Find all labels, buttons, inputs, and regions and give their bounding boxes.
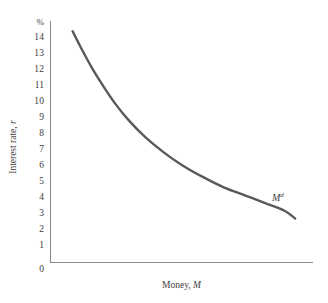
y-tick-label-10: 10 <box>22 97 44 107</box>
y-tick-label-1: 1 <box>22 241 44 251</box>
x-axis-title-symbol: M <box>193 280 201 290</box>
y-axis-title-text: Interest rate, <box>8 124 18 174</box>
y-tick-label-2: 2 <box>22 225 44 235</box>
y-tick-label-5: 5 <box>22 177 44 187</box>
y-axis-title-symbol: r <box>8 120 18 124</box>
x-axis-title: Money, M <box>50 280 313 290</box>
y-axis-title: Interest rate, r <box>8 103 18 191</box>
money-demand-chart: % 14 13 12 11 10 9 8 7 6 5 4 3 2 1 0 Int… <box>0 0 328 303</box>
y-tick-label-9: 9 <box>22 113 44 123</box>
y-tick-label-8: 8 <box>22 129 44 139</box>
y-tick-label-6: 6 <box>22 161 44 171</box>
chart-canvas <box>0 0 328 303</box>
y-tick-label-7: 7 <box>22 145 44 155</box>
y-tick-label-0: 0 <box>22 265 44 275</box>
y-tick-label-4: 4 <box>22 193 44 203</box>
money-demand-curve <box>73 31 296 218</box>
y-tick-label-3: 3 <box>22 209 44 219</box>
y-tick-label-14: 14 <box>22 33 44 43</box>
y-tick-label-13: 13 <box>22 49 44 59</box>
x-axis-title-text: Money, <box>162 280 193 290</box>
y-axis-unit-label: % <box>22 18 44 27</box>
y-tick-label-11: 11 <box>22 81 44 91</box>
curve-label-superscript: d <box>280 191 284 199</box>
y-tick-label-12: 12 <box>22 65 44 75</box>
money-demand-curve-label: Md <box>272 193 284 203</box>
